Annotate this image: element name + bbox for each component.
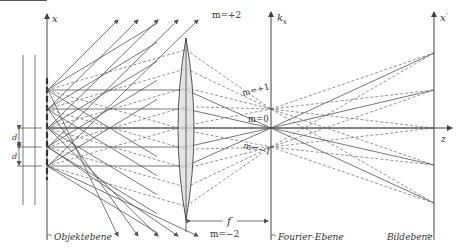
optics-diagram: d d x z kx x′ m=+2 m=+1 m=0 m=−1 m=−2 f … <box>0 0 463 252</box>
ray <box>186 147 271 206</box>
d-label-2: d <box>12 152 17 161</box>
image-axis-label: x′ <box>440 11 448 23</box>
escaping-ray-m-minus2 <box>48 128 158 236</box>
ray <box>271 109 434 165</box>
ray <box>47 166 186 206</box>
object-plane-tick <box>47 235 52 237</box>
d-label-1: d <box>12 133 17 142</box>
fourier-axis-label: kx <box>277 12 287 26</box>
order-label-minus1: m=−1 <box>243 140 272 156</box>
ray-bundle <box>0 0 434 236</box>
escaping-ray-m-minus2 <box>48 166 198 236</box>
ray <box>186 50 271 109</box>
ray <box>47 166 157 233</box>
ray <box>271 90 434 109</box>
ray <box>271 53 434 128</box>
slit-spacing-markers <box>17 128 42 166</box>
ray <box>271 128 434 203</box>
object-plane-label: Objektebene <box>54 232 112 242</box>
ray <box>47 88 186 128</box>
incident-wave <box>23 55 35 205</box>
order-label-plus2: m=+2 <box>212 10 241 20</box>
fourier-plane-tick <box>271 235 276 237</box>
order-label-minus2: m=−2 <box>210 229 239 239</box>
escaping-ray-m-plus2 <box>48 20 198 166</box>
ray <box>47 107 186 147</box>
order-label-0: m=0 <box>248 114 269 124</box>
ray <box>271 90 434 128</box>
ray <box>271 128 434 165</box>
ray <box>271 147 434 165</box>
ray <box>271 53 434 147</box>
ray <box>271 147 434 203</box>
object-axis-label: x <box>52 13 58 24</box>
fourier-plane-label: Fourier-Ebene <box>277 232 344 242</box>
order-label-plus1: m=+1 <box>241 82 270 98</box>
ray <box>271 128 434 147</box>
optical-axis-label: z <box>440 134 446 144</box>
ray <box>47 147 157 214</box>
image-plane-label: Bildebene <box>386 232 433 242</box>
ray <box>271 90 434 147</box>
ray <box>271 53 434 109</box>
